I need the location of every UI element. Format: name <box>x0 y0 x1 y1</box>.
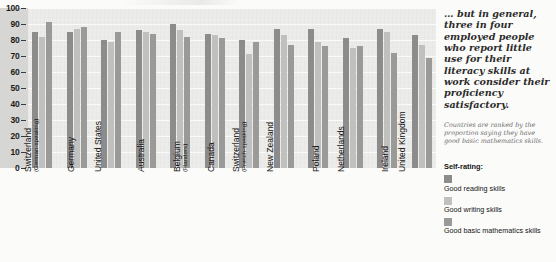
x-axis-label-main: New Zealand <box>266 122 275 172</box>
legend-item: Good basic mathematics skills <box>444 218 552 236</box>
legend-label: Good basic mathematics skills <box>444 227 552 236</box>
bar <box>253 42 259 168</box>
y-axis-tick: 60 <box>10 67 26 77</box>
x-axis-label: Canada <box>204 170 226 262</box>
bar-group <box>308 8 328 168</box>
bar <box>108 42 114 168</box>
x-axis-label: United Kingdom <box>410 170 432 262</box>
x-axis-label: Ireland <box>376 170 398 262</box>
y-axis-tick: 50 <box>10 83 26 93</box>
chart-caption: Countries are ranked by the proportion s… <box>444 121 552 146</box>
bar-group <box>377 8 397 168</box>
x-axis-label: Belgium(Flanders) <box>169 170 191 262</box>
bar <box>412 35 418 168</box>
x-axis-label: Germany <box>66 170 88 262</box>
page-top-artifact <box>120 0 320 5</box>
pull-quote: … but in general, three in four employed… <box>444 8 552 110</box>
x-axis-label-sub: (German-speaking) <box>33 119 40 172</box>
bar <box>288 45 294 168</box>
legend-label: Good reading skills <box>444 185 552 194</box>
x-axis-label-sub: (French-speaking) <box>240 122 247 172</box>
chart-page: 1009080706050403020100 Switzerland(Germa… <box>0 0 556 262</box>
x-axis-label-main: Netherlands <box>337 126 346 172</box>
x-axis-label: Switzerland(German-speaking) <box>32 170 54 262</box>
x-axis-label-sub: (Flanders) <box>182 141 189 172</box>
bar-group <box>101 8 121 168</box>
bar <box>281 35 287 168</box>
bar <box>39 37 45 168</box>
bar <box>219 38 225 168</box>
bar <box>426 58 432 168</box>
legend-swatch <box>444 197 452 205</box>
x-axis-label: United States <box>101 170 123 262</box>
x-axis-label-main: Ireland <box>381 146 390 172</box>
y-axis-tick: 80 <box>10 35 26 45</box>
x-axis-label-main: Germany <box>67 137 76 172</box>
x-axis-label: New Zealand <box>273 170 295 262</box>
bar <box>150 34 156 168</box>
bar <box>81 27 87 168</box>
legend: Self-rating: Good reading skillsGood wri… <box>444 162 552 235</box>
x-axis-label: Netherlands <box>341 170 363 262</box>
x-axis-labels: Switzerland(German-speaking)GermanyUnite… <box>28 170 436 262</box>
legend-swatch <box>444 218 452 226</box>
y-axis-tick: 40 <box>10 99 26 109</box>
bar-group <box>274 8 294 168</box>
x-axis-label-main: United Kingdom <box>398 112 407 172</box>
x-axis-label: Poland <box>307 170 329 262</box>
legend-item: Good writing skills <box>444 197 552 215</box>
y-axis-tick: 100 <box>6 3 26 13</box>
bar <box>357 46 363 168</box>
bar <box>419 45 425 168</box>
bar <box>350 48 356 168</box>
x-axis-label: Switzerland(French-speaking) <box>238 170 260 262</box>
x-axis-label-main: United States <box>94 121 103 172</box>
bar <box>322 46 328 168</box>
legend-label: Good writing skills <box>444 206 552 215</box>
x-axis-label: Australia <box>135 170 157 262</box>
right-panel: … but in general, three in four employed… <box>440 0 556 262</box>
x-axis-label-main: Australia <box>137 139 146 172</box>
bar <box>46 22 52 168</box>
y-axis-tick: 90 <box>10 19 26 29</box>
legend-title: Self-rating: <box>444 162 552 171</box>
x-axis-label-main: Poland <box>312 146 321 172</box>
legend-swatch <box>444 175 452 183</box>
bar-group <box>412 8 432 168</box>
x-axis-label-main: Canada <box>207 142 216 172</box>
legend-items: Good reading skillsGood writing skillsGo… <box>444 175 552 235</box>
legend-item: Good reading skills <box>444 175 552 193</box>
bar <box>115 32 121 168</box>
y-axis-tick: 70 <box>10 51 26 61</box>
